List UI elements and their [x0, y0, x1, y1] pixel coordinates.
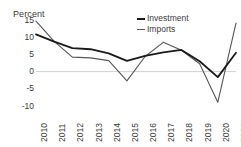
x-axis-tick-label: 2014: [113, 123, 122, 142]
legend-item-imports[interactable]: Imports: [137, 24, 232, 35]
x-axis-tick-label: 2021: [240, 123, 241, 142]
x-axis-tick-label: 2018: [185, 123, 194, 142]
y-axis-tick: 10: [10, 33, 34, 42]
x-axis-labels: 2010201120122013201420152016201720182019…: [36, 106, 236, 147]
chart-legend: Investment Imports: [137, 13, 232, 35]
x-axis-tick-label: 2012: [76, 123, 85, 142]
legend-item-investment[interactable]: Investment: [137, 13, 232, 24]
legend-label-imports: Imports: [147, 25, 175, 34]
legend-swatch-investment-icon: [137, 18, 145, 20]
x-axis-tick-label: 2013: [95, 123, 104, 142]
y-axis-tick: -5: [10, 84, 34, 93]
y-axis-tick: 15: [10, 16, 34, 25]
x-axis-tick-label: 2016: [149, 123, 158, 142]
x-axis-tick-label: 2020: [222, 123, 231, 142]
y-axis-tick: -10: [10, 102, 34, 111]
legend-label-investment: Investment: [147, 14, 189, 23]
y-axis-tick: 0: [10, 67, 34, 76]
x-axis-tick-label: 2017: [167, 123, 176, 142]
x-axis-tick-label: 2019: [204, 123, 213, 142]
y-axis-labels: 151050-5-10: [10, 0, 34, 147]
x-axis-tick-label: 2011: [58, 124, 67, 142]
line-chart: Percent 151050-5-10 20102011201220132014…: [0, 0, 241, 147]
x-axis-tick-label: 2010: [40, 123, 49, 142]
series-line-investment: [36, 34, 236, 77]
legend-swatch-imports-icon: [137, 29, 145, 30]
y-axis-tick: 5: [10, 50, 34, 59]
x-axis-tick-label: 2015: [131, 123, 140, 142]
